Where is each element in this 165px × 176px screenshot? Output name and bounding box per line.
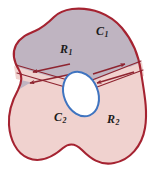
inner-curve-label: C2	[54, 111, 66, 125]
lower-region-label-sub: 2	[115, 118, 119, 127]
outer-curve-label-sub: 1	[104, 30, 108, 39]
outer-curve-label: C1	[96, 25, 108, 39]
inner-curve-label-sub: 2	[62, 116, 66, 125]
upper-region-label: R1	[60, 43, 72, 57]
lower-region-label-base: R	[107, 112, 115, 126]
upper-region-label-base: R	[60, 42, 68, 56]
region-diagram-svg	[0, 0, 165, 176]
outer-curve-label-base: C	[96, 24, 104, 38]
upper-region-label-sub: 1	[68, 48, 72, 57]
figure-container: C1 R1 C2 R2	[0, 0, 165, 176]
lower-region-label: R2	[107, 113, 119, 127]
inner-curve-label-base: C	[54, 110, 62, 124]
